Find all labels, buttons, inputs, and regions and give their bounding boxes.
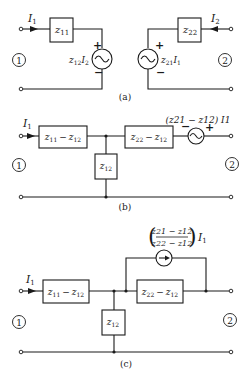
port2-label: 2 — [229, 160, 235, 170]
port1-bottom-terminal — [19, 87, 23, 91]
port2-top-terminal — [229, 134, 233, 138]
current-arrow-icon — [28, 288, 36, 294]
port2-label: 2 — [222, 56, 228, 66]
port2-top-terminal — [229, 27, 233, 31]
port1-top-terminal — [19, 289, 23, 293]
panel-a: I1 z11 + − z12I2 1 z22 I2 + − z21I1 2 (a… — [13, 12, 233, 102]
multiplier-i1: I1 — [197, 231, 207, 245]
caption-a: (a) — [119, 92, 131, 102]
caption-c: (c) — [120, 359, 132, 369]
current-i2-label: I2 — [210, 12, 220, 26]
caption-b: (b) — [119, 202, 132, 212]
panel-b: I1 z11−z12 z12 z22−z12 − + (z21 − z12) I… — [13, 115, 239, 212]
current-arrow-icon — [27, 133, 35, 139]
wire — [23, 69, 102, 89]
port1-label: 1 — [16, 161, 22, 171]
junction-dot — [204, 289, 207, 292]
port1-label: 1 — [16, 56, 22, 66]
port1-bottom-terminal — [19, 350, 23, 354]
port1-top-terminal — [19, 27, 23, 31]
fraction-denominator: z22 − z12 — [151, 239, 193, 248]
port2-label: 2 — [227, 316, 233, 326]
source-z21i1-label: z21I1 — [160, 55, 181, 66]
current-i1-label: I1 — [27, 12, 37, 26]
minus-sign: − — [156, 66, 165, 79]
port1-top-terminal — [19, 134, 23, 138]
source-z12i2-label: z12I2 — [68, 55, 89, 66]
current-source-label: ( z21 − z12 z22 − z12 ) I1 — [148, 224, 207, 249]
port2-bottom-terminal — [229, 350, 233, 354]
fraction-numerator: z21 − z12 — [151, 227, 193, 236]
current-arrow-icon — [30, 26, 38, 32]
port2-bottom-terminal — [229, 87, 233, 91]
current-arrow-icon — [210, 26, 218, 32]
source-label: (z21 − z12) I1 — [166, 115, 231, 125]
port2-bottom-terminal — [229, 195, 233, 199]
port1-label: 1 — [16, 318, 22, 328]
right-paren: ) — [188, 224, 197, 249]
port2-top-terminal — [229, 289, 233, 293]
current-i1-label: I1 — [22, 117, 32, 131]
plus-sign: + — [93, 39, 102, 52]
current-i1-label: I1 — [25, 273, 35, 287]
port1-bottom-terminal — [19, 195, 23, 199]
panel-c: ( z21 − z12 z22 − z12 ) I1 I1 z11−z12 z1… — [13, 224, 237, 369]
plus-sign: + — [155, 39, 164, 52]
two-port-equivalent-circuits: I1 z11 + − z12I2 1 z22 I2 + − z21I1 2 (a… — [0, 0, 250, 378]
